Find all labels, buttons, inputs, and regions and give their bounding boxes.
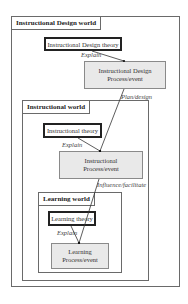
explain-label-id: Explain <box>81 51 101 58</box>
instructional-design-theory-box: Instructional Design theory <box>44 37 122 51</box>
learning-process-line2: Process/event <box>62 256 98 264</box>
instructional-theory-box: Instructional theory <box>43 123 102 138</box>
learning-world-label: Learning world <box>38 192 95 206</box>
instructional-process-line1: Instructional <box>83 157 119 165</box>
instructional-process-line2: Process/event <box>83 165 119 173</box>
instructional-design-process-box: Instructional Design Process/event <box>84 61 166 89</box>
instructional-design-world-label: Instructional Design world <box>11 16 101 30</box>
explain-label-instructional: Explain <box>62 141 82 148</box>
learning-process-line1: Learning <box>62 248 98 256</box>
id-process-line2: Process/event <box>99 75 152 83</box>
influence-facilitate-label: Influence/facilitate <box>97 181 146 188</box>
id-process-line1: Instructional Design <box>99 67 152 75</box>
plan-design-label: Plan/design <box>121 93 152 100</box>
instructional-process-box: Instructional Process/event <box>59 151 143 179</box>
instructional-world-label: Instructional world <box>22 100 90 114</box>
learning-theory-box: Learning theory <box>48 211 96 226</box>
learning-process-box: Learning Process/event <box>51 243 109 269</box>
explain-label-learning: Explain <box>57 229 77 236</box>
